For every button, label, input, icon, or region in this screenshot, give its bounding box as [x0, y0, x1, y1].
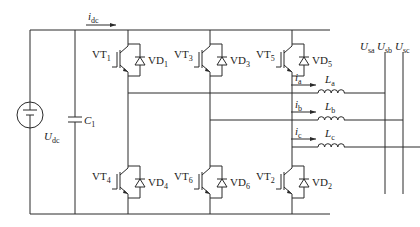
phase-lines	[128, 93, 420, 147]
circuit-diagram: Udc C1 idc VT1VD1VT3VD3VT5VD5VT4VD4VT6VD…	[0, 0, 420, 227]
vt-label: VT2	[256, 170, 275, 185]
svg-text:La: La	[324, 73, 335, 88]
vt-label: VT3	[174, 48, 193, 63]
usb-label: Usb	[377, 40, 392, 55]
svg-text:Lc: Lc	[324, 127, 335, 142]
vt-label: VT5	[256, 48, 275, 63]
c1-label: C1	[84, 114, 95, 129]
phase-c-inductor: icLc	[291, 125, 344, 148]
capacitor-c1: C1	[68, 114, 95, 129]
idc-arrow: idc	[86, 10, 116, 25]
switch-cell-2: VT3VD3	[174, 38, 250, 82]
grid-buses	[385, 52, 420, 194]
vd-label: VD2	[312, 176, 332, 191]
switch-cell-5: VT6VD6	[174, 160, 250, 204]
switch-cell-1: VT1VD1	[92, 38, 168, 82]
switch-cell-3: VT5VD5	[256, 38, 332, 82]
vt-label: VT1	[92, 48, 111, 63]
udc-label: Udc	[44, 130, 60, 145]
vd-label: VD1	[148, 54, 168, 69]
usa-label: Usa	[360, 40, 375, 55]
vt-label: VT6	[174, 170, 193, 185]
phase-b-inductor: ibLb	[291, 98, 344, 121]
vd-label: VD4	[148, 176, 168, 191]
svg-text:ic: ic	[295, 125, 302, 140]
vd-label: VD6	[230, 176, 250, 191]
svg-text:idc: idc	[88, 10, 99, 25]
switch-cell-6: VT2VD2	[256, 160, 332, 204]
switch-cell-4: VT4VD4	[92, 160, 168, 204]
svg-text:Lb: Lb	[324, 100, 335, 115]
usc-label: Usc	[395, 40, 410, 55]
vd-label: VD3	[230, 54, 250, 69]
vt-label: VT4	[92, 170, 111, 185]
dc-source: Udc	[17, 102, 60, 145]
svg-text:ib: ib	[295, 98, 302, 113]
vd-label: VD5	[312, 54, 332, 69]
